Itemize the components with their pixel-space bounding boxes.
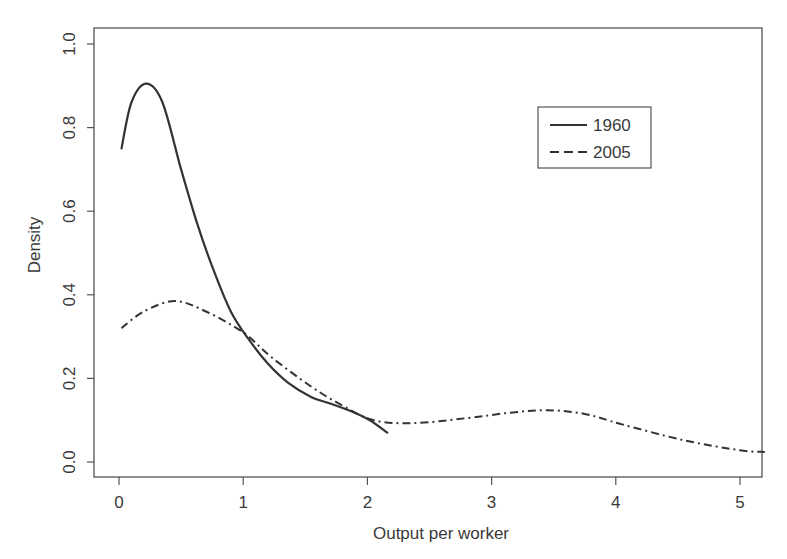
y-tick-label: 0.2 <box>60 367 79 391</box>
y-tick-label: 1.0 <box>60 32 79 56</box>
series-line-1960 <box>122 84 388 433</box>
x-tick-label: 1 <box>238 493 247 512</box>
x-tick-label: 3 <box>487 493 496 512</box>
x-tick-label: 4 <box>611 493 620 512</box>
y-tick-label: 0.4 <box>60 283 79 307</box>
x-tick-label: 5 <box>735 493 744 512</box>
legend-label-1960: 1960 <box>593 116 631 135</box>
x-tick-label: 0 <box>114 493 123 512</box>
x-axis: 012345 <box>114 477 744 512</box>
y-axis-label: Density <box>25 216 44 273</box>
x-axis-label: Output per worker <box>373 524 509 543</box>
series-line-2005 <box>122 301 765 452</box>
x-tick-label: 2 <box>363 493 372 512</box>
y-tick-label: 0.8 <box>60 116 79 140</box>
y-axis: 0.00.20.40.60.81.0 <box>60 32 94 474</box>
legend-label-2005: 2005 <box>593 143 631 162</box>
density-chart: 0.00.20.40.60.81.0 012345 Density Output… <box>0 0 787 559</box>
plot-area-frame <box>94 28 762 477</box>
y-tick-label: 0.6 <box>60 199 79 223</box>
series-layer <box>122 84 765 452</box>
y-tick-label: 0.0 <box>60 450 79 474</box>
legend: 1960 2005 <box>538 107 651 168</box>
